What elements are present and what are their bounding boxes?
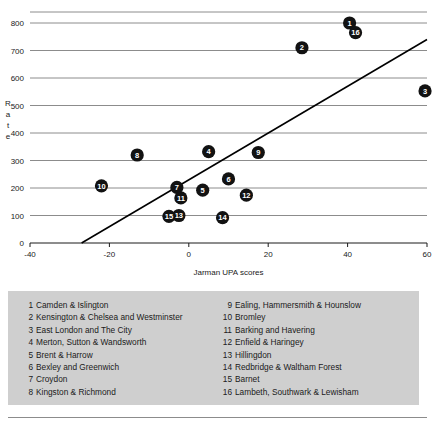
marker-label: 13 <box>175 211 183 220</box>
legend-entry: 12Enfield & Haringey <box>219 336 419 348</box>
y-tick-label: 100 <box>11 212 25 221</box>
legend-entry: 14Redbridge & Waltham Forest <box>219 361 419 373</box>
y-tick-label: 800 <box>11 19 25 28</box>
legend-entry-label: Bexley and Greenwich <box>36 361 119 373</box>
x-axis-title-text: Jarman UPA scores <box>193 268 263 277</box>
legend-entry-number: 7 <box>20 373 33 385</box>
x-tick-label: -40 <box>24 250 36 259</box>
legend-column-right: 9Ealing, Hammersmith & Hounslow10Bromley… <box>215 299 419 399</box>
data-point-marker[interactable]: 10 <box>95 179 108 192</box>
legend-entry: 8Kingston & Richmond <box>20 386 215 398</box>
legend-entry-number: 5 <box>20 349 33 361</box>
y-axis-title-char: R <box>5 99 11 108</box>
marker-label: 7 <box>175 183 179 192</box>
marker-label: 10 <box>97 182 105 191</box>
legend-entry-label: Redbridge & Waltham Forest <box>235 361 342 373</box>
y-axis-labels: 0100200300400500600700800 <box>11 19 25 248</box>
legend-entry-label: Merton, Sutton & Wandsworth <box>36 336 146 348</box>
legend-entry-number: 12 <box>219 336 232 348</box>
figure-container: 0100200300400500600700800 Rate -40-20020… <box>0 0 435 435</box>
legend-entry-label: Croydon <box>36 373 67 385</box>
gridlines <box>30 23 427 243</box>
data-point-marker[interactable]: 5 <box>196 184 209 197</box>
legend-entry-number: 1 <box>20 299 33 311</box>
marker-label: 9 <box>256 148 260 157</box>
marker-label: 11 <box>177 194 185 203</box>
legend-entry-label: Ealing, Hammersmith & Hounslow <box>235 299 361 311</box>
marker-label: 8 <box>135 151 139 160</box>
legend-columns: 1Camden & Islington2Kensington & Chelsea… <box>8 291 419 405</box>
data-point-marker[interactable]: 14 <box>216 211 229 224</box>
y-axis-title: Rate <box>5 99 11 141</box>
x-axis: -40-200204060 <box>24 243 432 259</box>
legend-entry: 4Merton, Sutton & Wandsworth <box>20 336 215 348</box>
y-axis-title-char: e <box>6 132 11 141</box>
x-tick-label: 40 <box>343 250 352 259</box>
legend-entry-number: 4 <box>20 336 33 348</box>
legend-entry-label: Brent & Harrow <box>36 349 93 361</box>
regression-line <box>82 40 427 244</box>
x-axis-title: Jarman UPA scores <box>193 268 263 277</box>
legend-entry: 11Barking and Havering <box>219 324 419 336</box>
y-tick-label: 700 <box>11 47 25 56</box>
data-point-marker[interactable]: 16 <box>349 26 362 39</box>
legend-entry-number: 3 <box>20 324 33 336</box>
legend-entry: 3East London and The City <box>20 324 215 336</box>
marker-label: 12 <box>242 191 250 200</box>
legend-entry-number: 2 <box>20 311 33 323</box>
legend-entry-number: 11 <box>219 324 232 336</box>
legend-entry-number: 10 <box>219 311 232 323</box>
scatter-chart: 0100200300400500600700800 Rate -40-20020… <box>0 0 435 282</box>
data-point-marker[interactable]: 12 <box>240 189 253 202</box>
legend-entry: 9Ealing, Hammersmith & Hounslow <box>219 299 419 311</box>
legend-entry-number: 15 <box>219 373 232 385</box>
legend-entry-label: Bromley <box>235 311 265 323</box>
marker-label: 15 <box>165 212 173 221</box>
x-tick-label: 0 <box>187 250 192 259</box>
legend-entry: 15Barnet <box>219 373 419 385</box>
legend-entry-label: Kensington & Chelsea and Westminster <box>36 311 183 323</box>
legend-entry-label: Kingston & Richmond <box>36 386 116 398</box>
legend-entry-number: 8 <box>20 386 33 398</box>
legend-entry-number: 14 <box>219 361 232 373</box>
marker-label: 2 <box>300 43 304 52</box>
marker-label: 1 <box>347 19 351 28</box>
trend-line <box>82 40 427 244</box>
legend-entry-label: Enfield & Haringey <box>235 336 304 348</box>
bottom-divider <box>8 417 427 418</box>
legend-entry-number: 13 <box>219 349 232 361</box>
marker-label: 14 <box>218 213 227 222</box>
x-tick-label: 60 <box>423 250 432 259</box>
y-axis-title-char: t <box>7 121 10 130</box>
y-tick-label: 500 <box>11 102 25 111</box>
data-point-marker[interactable]: 9 <box>252 146 265 159</box>
legend-entry-number: 6 <box>20 361 33 373</box>
legend-entry-number: 9 <box>219 299 232 311</box>
marker-label: 5 <box>201 186 205 195</box>
marker-label: 6 <box>226 175 230 184</box>
legend-entry-label: Barking and Havering <box>235 324 315 336</box>
data-point-marker[interactable]: 6 <box>222 172 235 185</box>
legend-entry: 6Bexley and Greenwich <box>20 361 215 373</box>
legend-entry: 10Bromley <box>219 311 419 323</box>
x-tick-label: 20 <box>264 250 273 259</box>
legend-entry: 2Kensington & Chelsea and Westminster <box>20 311 215 323</box>
legend-entry-label: Hillingdon <box>235 349 271 361</box>
data-points: 12345678910111213141516 <box>95 16 432 224</box>
data-point-marker[interactable]: 11 <box>174 191 187 204</box>
y-axis-title-char: a <box>6 110 11 119</box>
y-tick-label: 600 <box>11 74 25 83</box>
legend-entry-number: 16 <box>219 386 232 398</box>
data-point-marker[interactable]: 15 <box>162 210 175 223</box>
y-tick-label: 300 <box>11 157 25 166</box>
legend-entry: 1Camden & Islington <box>20 299 215 311</box>
legend-entry-label: East London and The City <box>36 324 132 336</box>
legend-box: 1Camden & Islington2Kensington & Chelsea… <box>8 291 419 405</box>
data-point-marker[interactable]: 4 <box>202 145 215 158</box>
legend-column-left: 1Camden & Islington2Kensington & Chelsea… <box>8 299 215 399</box>
data-point-marker[interactable]: 2 <box>295 41 308 54</box>
data-point-marker[interactable]: 8 <box>131 148 144 161</box>
data-point-marker[interactable]: 3 <box>418 84 431 97</box>
marker-label: 3 <box>423 87 427 96</box>
marker-label: 16 <box>351 28 359 37</box>
